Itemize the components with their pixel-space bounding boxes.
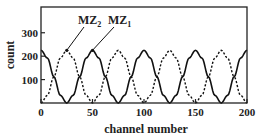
annotation-leader-line	[67, 27, 84, 50]
chart: 100200300 050100150200 channel number co…	[0, 0, 262, 140]
series-layer	[41, 50, 247, 103]
x-tick-label: 100	[136, 106, 153, 118]
axes-frame	[41, 7, 247, 103]
annotation-point-marker	[65, 49, 68, 52]
series-annotations: MZ2MZ1	[65, 13, 131, 52]
y-tick-label: 200	[22, 50, 39, 62]
x-tick-label: 0	[38, 106, 44, 118]
x-tick-label: 150	[187, 106, 204, 118]
annotation-leader-line	[93, 27, 115, 50]
annotation-label-mz1: MZ1	[108, 13, 131, 29]
y-tick-label: 100	[22, 74, 39, 86]
series-line-mz1	[41, 50, 247, 103]
annotation-label-mz2: MZ2	[78, 13, 101, 29]
y-tick-label: 300	[22, 27, 39, 39]
annotation-point-marker	[91, 49, 94, 52]
x-tick-label: 200	[239, 106, 256, 118]
y-axis-label: count	[3, 41, 17, 70]
x-tick-label: 50	[87, 106, 99, 118]
x-axis-label: channel number	[104, 122, 188, 136]
